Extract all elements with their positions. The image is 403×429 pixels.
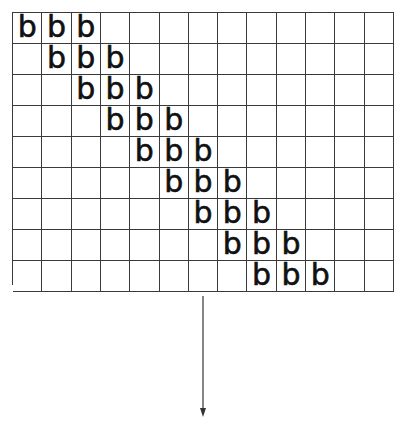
grid-cell [13, 230, 42, 261]
grid-cell [218, 13, 247, 44]
grid-cell [306, 199, 335, 230]
grid-cell [189, 230, 218, 261]
grid-cell [365, 199, 394, 230]
grid-cell [13, 168, 42, 199]
letter-b: b [252, 229, 271, 259]
letter-b: b [106, 43, 125, 73]
grid-cell [306, 13, 335, 44]
letter-b: b [164, 105, 183, 135]
grid-cell [72, 106, 101, 137]
grid-cell [189, 75, 218, 106]
grid-cell [277, 168, 306, 199]
letter-b: b [135, 74, 154, 104]
letter-grid: bbbbbbbbbbbbbbbbbbbbbbbbbbb [12, 12, 394, 285]
grid-cell [365, 230, 394, 261]
grid-cell [365, 168, 394, 199]
grid-cell: b [160, 168, 189, 199]
grid-cell [130, 13, 159, 44]
grid-cell: b [218, 230, 247, 261]
grid-cell [101, 230, 130, 261]
letter-b: b [193, 167, 212, 197]
grid-cell [189, 44, 218, 75]
grid-cell [130, 168, 159, 199]
grid-cell [13, 44, 42, 75]
grid-cell [247, 137, 276, 168]
grid-cell [42, 137, 71, 168]
grid-cell [101, 168, 130, 199]
grid-cell [160, 230, 189, 261]
grid-cell [42, 199, 71, 230]
grid-cell [189, 13, 218, 44]
grid-cell [277, 137, 306, 168]
grid-cell [130, 261, 159, 292]
letter-b: b [164, 136, 183, 166]
grid-cell [306, 137, 335, 168]
grid-cell: b [101, 106, 130, 137]
letter-b: b [106, 105, 125, 135]
grid-cell [218, 44, 247, 75]
grid-cell: b [42, 44, 71, 75]
grid-cell [365, 13, 394, 44]
down-arrow-icon [196, 294, 210, 420]
grid-cell [42, 168, 71, 199]
grid-cell [247, 75, 276, 106]
grid-cell [101, 199, 130, 230]
grid-cell [72, 137, 101, 168]
grid-cell [335, 261, 364, 292]
letter-b: b [47, 12, 66, 42]
grid-cell [247, 106, 276, 137]
grid-cell [306, 44, 335, 75]
grid-cell [160, 44, 189, 75]
grid-cell [130, 199, 159, 230]
letter-b: b [193, 198, 212, 228]
grid-cell [247, 44, 276, 75]
grid-cell [218, 261, 247, 292]
grid-cell [160, 199, 189, 230]
grid-cell [72, 168, 101, 199]
grid-cell [335, 199, 364, 230]
grid-cell [306, 168, 335, 199]
grid-cell [277, 106, 306, 137]
grid-cell [42, 230, 71, 261]
grid-cell [42, 75, 71, 106]
grid-cell [160, 261, 189, 292]
grid-cell [13, 261, 42, 292]
grid-cell [277, 44, 306, 75]
grid-cell: b [13, 13, 42, 44]
letter-b: b [311, 260, 330, 290]
grid-cell [335, 137, 364, 168]
letter-b: b [252, 260, 271, 290]
letter-b: b [252, 198, 271, 228]
grid-cell [306, 106, 335, 137]
letter-b: b [223, 229, 242, 259]
letter-b: b [281, 260, 300, 290]
grid-cell [365, 44, 394, 75]
grid-cell: b [306, 261, 335, 292]
grid-cell [277, 13, 306, 44]
grid-cell [335, 75, 364, 106]
grid-cell [335, 13, 364, 44]
grid-cell [101, 137, 130, 168]
letter-b: b [281, 229, 300, 259]
grid-cell [72, 199, 101, 230]
grid-cell [335, 168, 364, 199]
letter-b: b [76, 12, 95, 42]
grid-cell [42, 106, 71, 137]
letter-b: b [193, 136, 212, 166]
grid-cell [72, 261, 101, 292]
grid-cell: b [277, 261, 306, 292]
letter-b: b [135, 136, 154, 166]
grid-cell [130, 230, 159, 261]
grid-cell [13, 75, 42, 106]
letter-b: b [76, 43, 95, 73]
letter-b: b [223, 167, 242, 197]
grid-cell: b [72, 75, 101, 106]
grid-cell [335, 106, 364, 137]
grid-cell: b [247, 261, 276, 292]
grid-cell [13, 137, 42, 168]
grid-cell [335, 230, 364, 261]
grid-cell [365, 75, 394, 106]
letter-b: b [106, 74, 125, 104]
grid-cell [189, 261, 218, 292]
letter-b: b [47, 43, 66, 73]
